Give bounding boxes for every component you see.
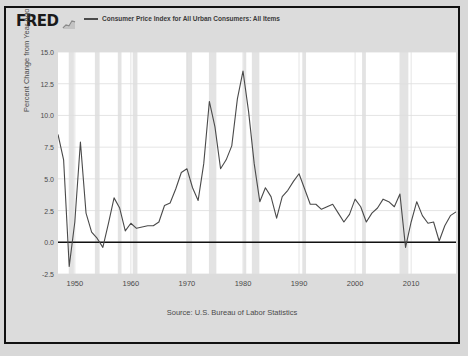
y-axis-label: Percent Change from Year Ago xyxy=(22,9,31,112)
recession-band xyxy=(302,52,306,274)
x-tick-label: 2010 xyxy=(403,279,420,288)
recession-band xyxy=(252,52,260,274)
x-tick-label: 1950 xyxy=(66,279,83,288)
legend-series-label: Consumer Price Index for All Urban Consu… xyxy=(102,15,280,22)
chart-svg xyxy=(58,52,456,274)
chart-glyph-icon xyxy=(62,16,76,34)
source-note: Source: U.S. Bureau of Labor Statistics xyxy=(6,308,458,317)
y-tick-label: 12.5 xyxy=(40,80,54,87)
x-tick-label: 2000 xyxy=(347,279,364,288)
y-tick-label: 5.0 xyxy=(44,175,54,182)
y-tick-label: 10.0 xyxy=(40,112,54,119)
y-tick-label: 0.0 xyxy=(44,239,54,246)
y-tick-label: 15.0 xyxy=(40,49,54,56)
x-tick-label: 1980 xyxy=(235,279,252,288)
legend-color-swatch xyxy=(84,18,98,20)
recession-band xyxy=(209,52,216,274)
recession-band xyxy=(118,52,122,274)
recession-band xyxy=(133,52,138,274)
recession-band xyxy=(362,52,366,274)
y-tick-label: -2.5 xyxy=(42,271,54,278)
fred-chart-figure: FRED Consumer Price Index for All Urban … xyxy=(4,6,460,344)
x-tick-label: 1970 xyxy=(179,279,196,288)
recession-band xyxy=(69,52,74,274)
chart-legend: Consumer Price Index for All Urban Consu… xyxy=(84,15,280,22)
plot-canvas xyxy=(58,52,456,274)
y-tick-label: 7.5 xyxy=(44,144,54,151)
x-tick-label: 1990 xyxy=(291,279,308,288)
x-tick-label: 1960 xyxy=(123,279,140,288)
y-tick-label: 2.5 xyxy=(44,207,54,214)
chart-header: FRED Consumer Price Index for All Urban … xyxy=(6,8,458,32)
plot-area: Percent Change from Year Ago 15.012.510.… xyxy=(58,52,456,274)
